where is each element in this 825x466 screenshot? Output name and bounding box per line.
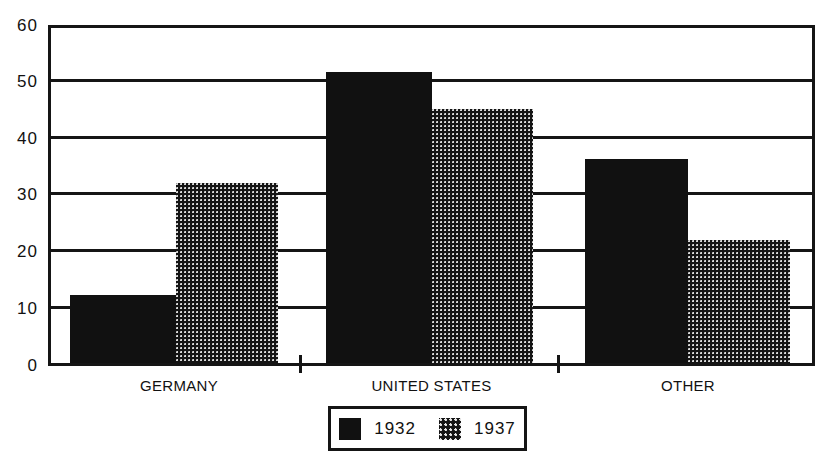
legend-swatch-dotted-icon xyxy=(439,418,461,440)
legend-label-1937: 1937 xyxy=(474,419,516,439)
x-axis-line xyxy=(48,363,815,366)
legend-item-1937: 1937 xyxy=(439,418,516,440)
x-category-label-germany: GERMANY xyxy=(99,377,259,394)
bar-united-states-1937 xyxy=(432,109,533,366)
legend-label-1932: 1932 xyxy=(374,419,416,439)
legend-swatch-solid-icon xyxy=(339,418,361,440)
bar-other-1932 xyxy=(585,159,688,366)
bars-layer xyxy=(0,0,825,366)
bar-germany-1937 xyxy=(176,183,278,366)
legend-item-1932: 1932 xyxy=(339,418,416,440)
legend: 1932 1937 xyxy=(328,406,527,451)
bar-germany-1932 xyxy=(70,295,176,366)
x-axis-tick-2 xyxy=(557,355,560,373)
bar-united-states-1932 xyxy=(326,72,432,366)
bar-other-1937 xyxy=(688,240,790,366)
x-category-label-united-states: UNITED STATES xyxy=(349,377,514,394)
bar-chart: 60 50 40 30 20 10 0 GERMANY UNITED STATE… xyxy=(0,0,825,466)
x-axis-tick-1 xyxy=(299,355,302,373)
x-category-label-other: OTHER xyxy=(608,377,768,394)
